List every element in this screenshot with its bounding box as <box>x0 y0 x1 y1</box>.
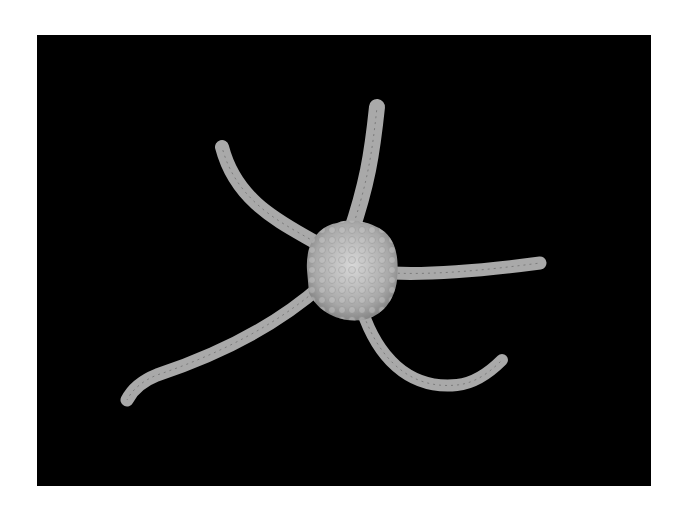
brittle-star-illustration <box>37 35 651 486</box>
brittle-star-photo <box>37 35 651 486</box>
